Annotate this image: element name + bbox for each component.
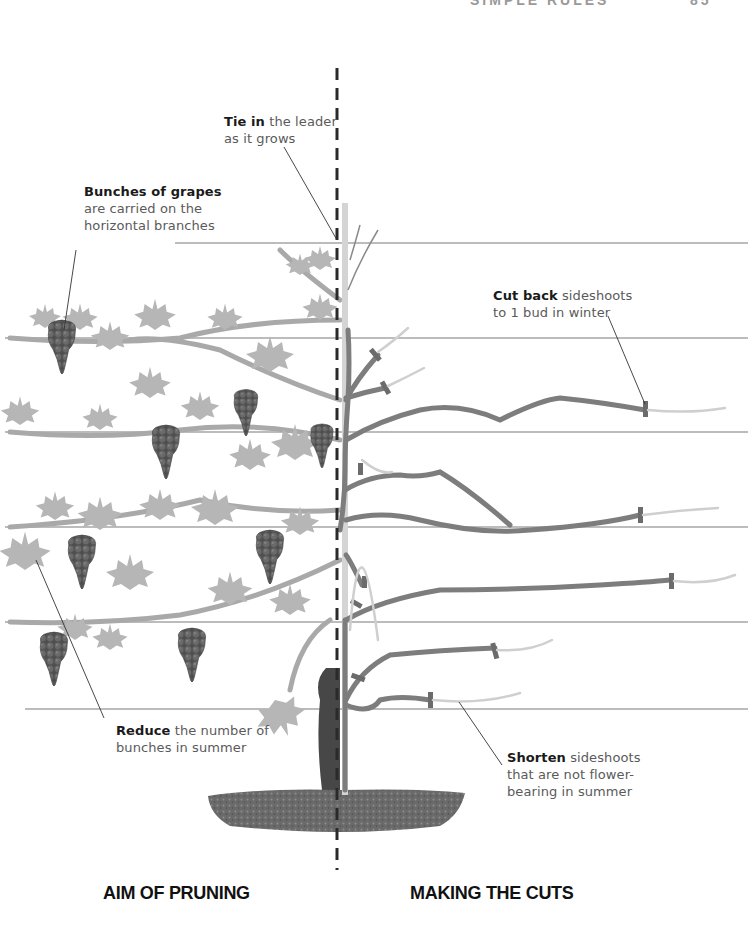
callout-shorten-bold: Shorten — [507, 750, 566, 765]
callout-reduce: Reduce the number of bunches in summer — [116, 722, 269, 756]
section-title-making-the-cuts: MAKING THE CUTS — [410, 883, 574, 904]
section-title-aim-of-pruning: AIM OF PRUNING — [103, 883, 250, 904]
callout-tie-in: Tie in the leader as it grows — [224, 113, 337, 147]
callout-bunches-line3: horizontal branches — [84, 218, 215, 233]
illustration — [0, 0, 748, 951]
callout-leader-lines — [36, 147, 645, 765]
callout-bunches: Bunches of grapes are carried on the hor… — [84, 183, 222, 234]
pruned-rods — [340, 330, 670, 790]
callout-shorten-line3: bearing in summer — [507, 784, 632, 799]
callout-reduce-bold: Reduce — [116, 723, 171, 738]
callout-cut-back-line2: to 1 bud in winter — [493, 305, 610, 320]
new-growth-shoots — [350, 328, 735, 701]
callout-shorten-text: sideshoots — [566, 750, 641, 765]
callout-cut-back-text: sideshoots — [558, 288, 633, 303]
callout-tie-in-bold: Tie in — [224, 114, 265, 129]
callout-tie-in-text: the leader — [265, 114, 337, 129]
callout-bunches-line2: are carried on the — [84, 201, 202, 216]
callout-reduce-text: the number of — [171, 723, 269, 738]
leader-shoot — [348, 225, 378, 290]
callout-bunches-bold: Bunches of grapes — [84, 184, 222, 199]
callout-tie-in-line2: as it grows — [224, 131, 295, 146]
callout-cut-back-bold: Cut back — [493, 288, 558, 303]
espalier-grapevine-diagram: SIMPLE RULES 85 — [0, 0, 748, 951]
callout-cut-back: Cut back sideshoots to 1 bud in winter — [493, 287, 632, 321]
callout-shorten-line2: that are not flower- — [507, 767, 634, 782]
callout-reduce-line2: bunches in summer — [116, 740, 246, 755]
callout-shorten: Shorten sideshoots that are not flower- … — [507, 749, 641, 800]
